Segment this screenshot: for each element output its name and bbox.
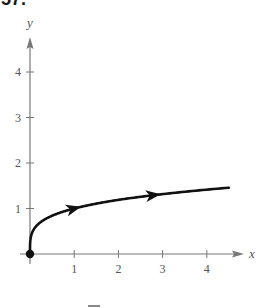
x-tick-label: 3 xyxy=(160,262,166,276)
y-tick-label: 3 xyxy=(15,111,21,125)
plot-area: xy 12341234 xyxy=(0,0,260,308)
x-axis-label: x xyxy=(248,246,255,261)
x-tick-label: 4 xyxy=(204,262,210,276)
start-point-dot xyxy=(26,250,34,258)
direction-arrow-icon xyxy=(65,201,83,216)
cropped-radical-bar xyxy=(88,305,100,307)
axes: xy xyxy=(20,15,255,264)
x-tick-label: 1 xyxy=(71,262,77,276)
y-tick-label: 2 xyxy=(15,156,21,170)
curve xyxy=(26,188,229,258)
y-axis-label: y xyxy=(25,15,33,30)
x-tick-label: 2 xyxy=(115,262,121,276)
curve-line xyxy=(30,188,229,254)
ticks: 12341234 xyxy=(15,65,210,276)
y-tick-label: 4 xyxy=(15,65,21,79)
y-tick-label: 1 xyxy=(15,202,21,216)
